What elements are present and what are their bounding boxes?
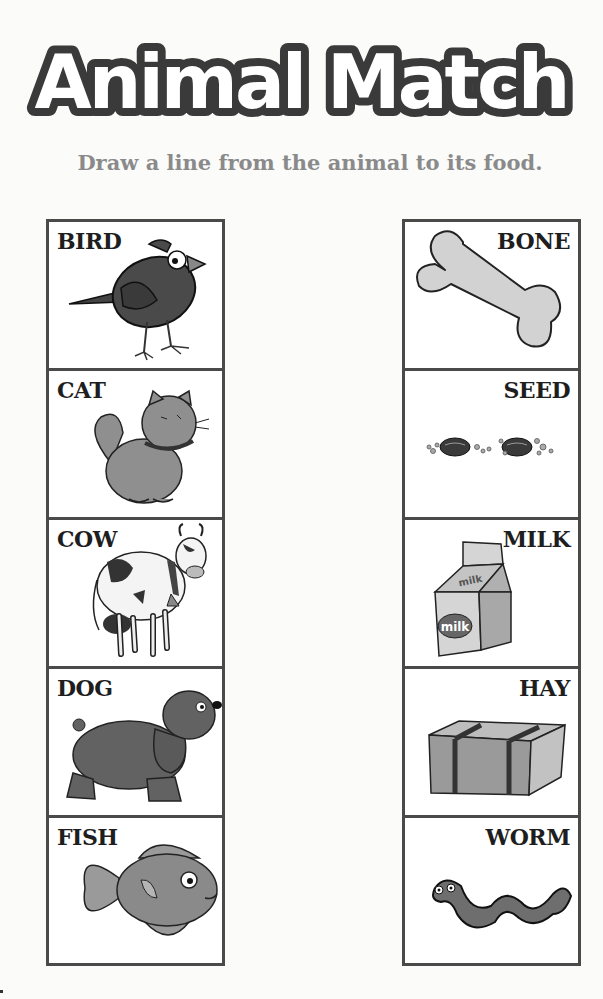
worm-icon — [405, 818, 578, 963]
cow-icon — [49, 520, 222, 666]
fish-icon — [49, 818, 222, 963]
food-card-worm[interactable]: WORM — [405, 818, 578, 963]
food-card-hay[interactable]: HAY — [405, 669, 578, 818]
seed-icon — [405, 371, 578, 517]
animal-card-bird[interactable]: BIRD — [49, 222, 222, 371]
hay-bale-icon — [405, 669, 578, 815]
dog-icon — [49, 669, 222, 815]
animal-column: BIRD CAT COW — [46, 219, 225, 966]
milk-carton-text: milk — [441, 620, 471, 634]
bird-icon — [49, 222, 222, 368]
animal-card-fish[interactable]: FISH — [49, 818, 222, 963]
food-card-bone[interactable]: BONE — [405, 222, 578, 371]
page-mark — [0, 990, 3, 993]
instructions: Draw a line from the animal to its food. — [30, 150, 590, 175]
milk-carton-icon: milk milk — [405, 520, 578, 666]
food-column: BONE SEED MILK milk m — [402, 219, 581, 966]
page-title: Animal Match Animal Match — [0, 36, 603, 126]
animal-card-cow[interactable]: COW — [49, 520, 222, 669]
title-text: Animal Match — [35, 39, 568, 125]
bone-icon — [405, 222, 578, 368]
food-card-milk[interactable]: MILK milk milk — [405, 520, 578, 669]
food-card-seed[interactable]: SEED — [405, 371, 578, 520]
cat-icon — [49, 371, 222, 517]
animal-card-dog[interactable]: DOG — [49, 669, 222, 818]
animal-card-cat[interactable]: CAT — [49, 371, 222, 520]
